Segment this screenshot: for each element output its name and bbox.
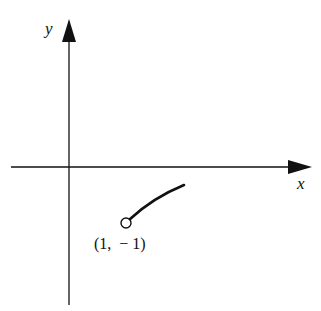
coordinate-plane bbox=[0, 0, 321, 311]
function-curve bbox=[130, 185, 185, 220]
y-axis-arrowhead-icon bbox=[62, 19, 76, 42]
x-axis-label: x bbox=[297, 174, 305, 194]
x-axis-arrowhead-icon bbox=[288, 160, 312, 174]
point-label: (1, − 1) bbox=[94, 235, 146, 253]
y-axis-label: y bbox=[45, 19, 53, 39]
open-circle-point bbox=[121, 218, 131, 228]
